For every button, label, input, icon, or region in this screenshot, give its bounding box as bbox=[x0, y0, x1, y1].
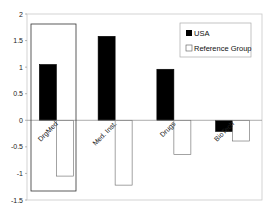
y-tick-label: -0.5 bbox=[11, 143, 23, 150]
bar-reference-1 bbox=[115, 120, 132, 185]
bar-chart: 21.510.50-0.5-1-1.5 DrgMedMed. Inst.Drug… bbox=[0, 0, 276, 218]
y-tick-label: 1 bbox=[19, 64, 23, 71]
bar-reference-3 bbox=[233, 120, 250, 141]
y-axis: 21.510.50-0.5-1-1.5 bbox=[11, 11, 27, 204]
legend: USA Reference Group bbox=[180, 23, 252, 57]
legend-label-reference: Reference Group bbox=[194, 44, 252, 53]
bar-usa-0 bbox=[39, 64, 56, 120]
bar-reference-0 bbox=[56, 120, 73, 176]
bar-usa-1 bbox=[98, 36, 115, 120]
y-tick-label: 0 bbox=[19, 117, 23, 124]
legend-label-usa: USA bbox=[194, 29, 209, 38]
y-tick-label: 2 bbox=[19, 11, 23, 18]
y-tick-label: 0.5 bbox=[13, 90, 23, 97]
y-tick-label: -1 bbox=[17, 170, 23, 177]
legend-swatch-reference bbox=[186, 45, 192, 51]
legend-swatch-usa bbox=[186, 30, 192, 36]
bar-usa-2 bbox=[157, 69, 174, 120]
bar-reference-2 bbox=[174, 120, 191, 154]
y-tick-label: -1.5 bbox=[11, 197, 23, 204]
y-tick-label: 1.5 bbox=[13, 37, 23, 44]
